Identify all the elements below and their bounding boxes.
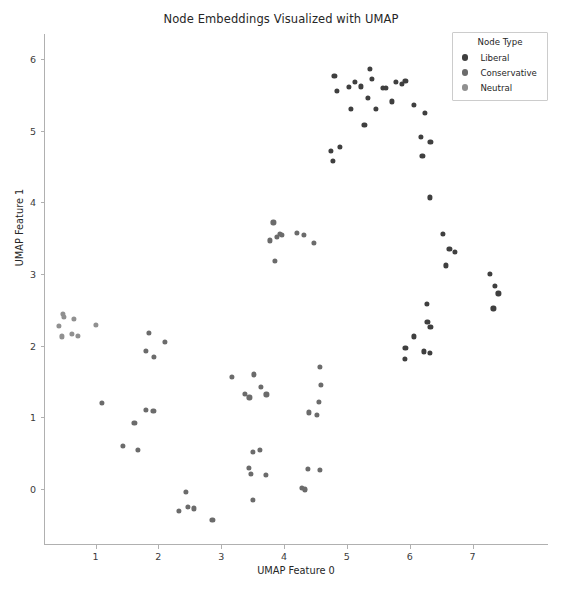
- legend-item-label: Liberal: [480, 53, 509, 63]
- y-axis-tick: [41, 417, 45, 418]
- y-axis-tick-label: 3: [30, 269, 36, 280]
- x-axis-label: UMAP Feature 0: [44, 565, 548, 576]
- legend-item-conservative[interactable]: Conservative: [458, 65, 542, 80]
- legend-item-neutral[interactable]: Neutral: [458, 80, 542, 95]
- y-axis-tick-label: 6: [30, 54, 36, 65]
- x-axis-tick: [158, 545, 159, 549]
- legend-marker-icon: [462, 54, 468, 60]
- x-axis-tick-label: 7: [470, 551, 476, 562]
- x-axis-tick: [347, 545, 348, 549]
- legend-marker-icon: [462, 84, 468, 90]
- y-axis-tick-label: 2: [30, 340, 36, 351]
- legend-marker-icon: [462, 69, 468, 75]
- umap-scatter-figure: Node Embeddings Visualized with UMAP UMA…: [0, 0, 562, 591]
- legend-item-label: Conservative: [480, 68, 537, 78]
- y-axis-tick: [41, 131, 45, 132]
- x-axis-tick-label: 1: [92, 551, 98, 562]
- x-axis-tick: [221, 545, 222, 549]
- x-axis-tick-label: 5: [344, 551, 350, 562]
- y-axis-tick: [41, 59, 45, 60]
- plot-area: [44, 34, 548, 545]
- legend-item-label: Neutral: [480, 83, 512, 93]
- x-axis-tick-label: 3: [218, 551, 224, 562]
- y-axis-label: UMAP Feature 1: [14, 168, 25, 288]
- legend-title: Node Type: [458, 37, 542, 47]
- y-axis-tick-label: 4: [30, 197, 36, 208]
- y-axis-tick: [41, 346, 45, 347]
- page-title: Node Embeddings Visualized with UMAP: [0, 12, 562, 26]
- x-axis-tick: [473, 545, 474, 549]
- x-axis-tick: [284, 545, 285, 549]
- legend-item-liberal[interactable]: Liberal: [458, 50, 542, 65]
- x-axis-tick-label: 6: [407, 551, 413, 562]
- x-axis-tick: [96, 545, 97, 549]
- y-axis-tick: [41, 489, 45, 490]
- x-axis-tick-label: 4: [281, 551, 287, 562]
- y-axis-tick: [41, 202, 45, 203]
- y-axis-tick-label: 1: [30, 412, 36, 423]
- legend: Node Type Liberal Conservative Neutral: [452, 32, 548, 101]
- y-axis-tick-label: 5: [30, 125, 36, 136]
- x-axis-tick: [410, 545, 411, 549]
- y-axis-tick-label: 0: [30, 484, 36, 495]
- x-axis-tick-label: 2: [155, 551, 161, 562]
- y-axis-tick: [41, 274, 45, 275]
